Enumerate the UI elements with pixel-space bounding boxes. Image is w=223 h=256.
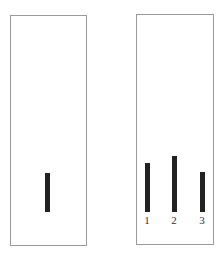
standard-line [45,173,50,212]
comparison-line-1 [145,163,150,212]
comparison-label-1: 1 [141,215,153,226]
comparison-line-2 [172,156,177,212]
comparison-label-2: 2 [168,215,180,226]
comparison-label-3: 3 [196,215,208,226]
comparison-line-3 [200,172,205,212]
